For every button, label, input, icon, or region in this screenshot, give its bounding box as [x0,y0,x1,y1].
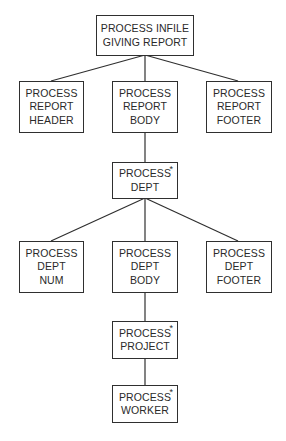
node-process-infile: PROCESS INFILE GIVING REPORT [96,15,194,56]
node-label-line: DEPT [37,260,65,274]
node-label-line: PROCESS [119,391,171,405]
node-label-line: PROCESS [119,327,171,341]
node-process-project: * PROCESS PROJECT [112,321,178,359]
node-label-line: DEPT [131,181,159,195]
node-label-line: DEPT [225,260,253,274]
node-label-line: REPORT [217,100,261,114]
node-label-line: PROCESS [119,167,171,181]
node-label-line: NUM [39,274,63,288]
node-label-line: DEPT [131,260,159,274]
node-process-report-header: PROCESS REPORT HEADER [19,81,84,133]
edge-root-footer [145,55,238,81]
node-label-line: PROCESS [25,247,77,261]
node-process-dept: * PROCESS DEPT [112,162,178,199]
node-label-line: PROJECT [120,340,170,354]
edge-dept-num [51,198,145,241]
iteration-marker: * [169,165,173,174]
node-process-dept-body: PROCESS DEPT BODY [112,241,178,293]
node-label-line: PROCESS [119,247,171,261]
node-label-line: PROCESS [213,87,265,101]
node-process-report-body: PROCESS REPORT BODY [112,81,178,133]
node-label-line: PROCESS [213,247,265,261]
node-label-line: WORKER [121,404,169,418]
node-label-line: PROCESS [119,87,171,101]
node-label-line: GIVING REPORT [103,36,188,50]
node-label-line: FOOTER [217,274,261,288]
node-label-line: PROCESS [25,87,77,101]
node-label-line: REPORT [123,100,167,114]
node-label-line: BODY [130,274,160,288]
node-label-line: REPORT [29,100,73,114]
cropped-text-bottom [0,435,286,441]
node-process-report-footer: PROCESS REPORT FOOTER [206,81,272,133]
edge-root-header [51,55,145,81]
iteration-marker: * [169,324,173,333]
node-process-worker: * PROCESS WORKER [112,385,178,423]
node-process-dept-footer: PROCESS DEPT FOOTER [206,241,272,293]
iteration-marker: * [169,388,173,397]
node-label-line: HEADER [29,114,73,128]
node-label-line: PROCESS INFILE [101,22,189,36]
connector-lines [0,0,286,441]
node-label-line: BODY [130,114,160,128]
node-process-dept-num: PROCESS DEPT NUM [19,241,84,293]
edge-dept-footer [145,198,238,241]
node-label-line: FOOTER [217,114,261,128]
